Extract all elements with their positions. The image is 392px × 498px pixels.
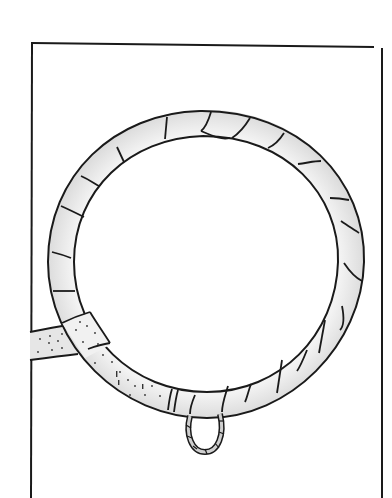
wrapped-ring-illustration	[0, 0, 392, 498]
ring	[48, 110, 364, 418]
hanging-loop	[186, 414, 224, 454]
